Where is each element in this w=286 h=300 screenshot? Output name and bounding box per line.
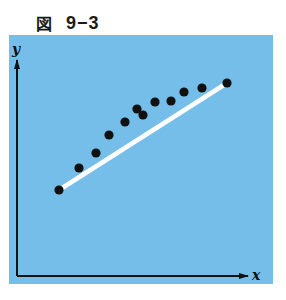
data-point: [74, 163, 83, 172]
data-point: [138, 110, 147, 119]
data-point: [150, 97, 159, 106]
data-point: [104, 130, 113, 139]
data-point: [222, 78, 231, 87]
data-point: [197, 83, 206, 92]
scatter-plot: y x: [0, 0, 286, 300]
data-point: [179, 87, 188, 96]
x-axis-label: x: [251, 267, 261, 283]
y-axis-label: y: [11, 41, 21, 57]
data-point: [166, 96, 175, 105]
data-point: [91, 148, 100, 157]
data-point: [54, 185, 63, 194]
trend-line: [59, 83, 227, 190]
data-point: [120, 117, 129, 126]
